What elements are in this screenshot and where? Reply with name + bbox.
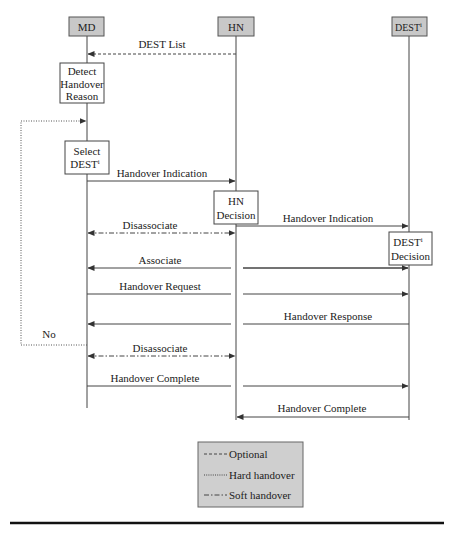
- message-label: DEST List: [138, 38, 185, 50]
- actor-dest: DESTi: [392, 17, 427, 36]
- legend-soft-label: Soft handover: [229, 489, 291, 501]
- message-handover-response: Handover Response: [88, 310, 409, 324]
- process-line: DESTi: [70, 158, 100, 170]
- loop-label: No: [42, 328, 56, 340]
- legend: Optional Hard handover Soft handover: [198, 442, 303, 507]
- message-label: Handover Request: [119, 280, 201, 292]
- process-line: DESTi: [393, 236, 423, 248]
- message-label: Handover Complete: [278, 402, 367, 414]
- message-disassociate-1: Disassociate: [88, 219, 235, 233]
- actor-dest-label: DESTi: [395, 21, 422, 33]
- message-label: Handover Indication: [283, 212, 374, 224]
- message-label: Disassociate: [133, 342, 188, 354]
- process-line: Decision: [391, 250, 431, 262]
- message-disassociate-2: Disassociate: [88, 342, 235, 356]
- process-detect-handover-reason: Detect Handover Reason: [60, 63, 104, 103]
- message-handover-indication-2: Handover Indication: [236, 212, 408, 226]
- message-label: Disassociate: [123, 219, 178, 231]
- process-line: Reason: [66, 90, 99, 102]
- message-handover-complete-2: Handover Complete: [237, 402, 409, 417]
- message-dest-list: DEST List: [88, 38, 236, 54]
- message-associate: Associate: [88, 254, 408, 268]
- actor-md: MD: [69, 17, 104, 36]
- process-line: Select: [74, 145, 101, 157]
- process-line: Handover: [60, 78, 104, 90]
- message-handover-complete-1: Handover Complete: [87, 372, 408, 386]
- process-line: Decision: [216, 209, 256, 221]
- sequence-diagram: MD HN DESTi DEST List Detect Handover Re…: [0, 0, 451, 533]
- process-select-dest: Select DESTi: [65, 141, 109, 174]
- process-hn-decision: HN Decision: [214, 191, 258, 224]
- process-line: HN: [228, 195, 244, 207]
- process-line: Detect: [68, 65, 97, 77]
- process-dest-decision: DESTi Decision: [389, 232, 432, 265]
- message-label: Associate: [139, 254, 182, 266]
- actor-md-label: MD: [78, 21, 96, 33]
- message-label: Handover Response: [284, 310, 372, 322]
- legend-optional-label: Optional: [229, 448, 268, 460]
- actor-hn: HN: [218, 17, 254, 36]
- message-label: Handover Complete: [111, 372, 200, 384]
- message-handover-request: Handover Request: [87, 280, 408, 294]
- legend-hard-label: Hard handover: [229, 469, 295, 481]
- message-label: Handover Indication: [117, 167, 208, 179]
- actor-hn-label: HN: [228, 21, 244, 33]
